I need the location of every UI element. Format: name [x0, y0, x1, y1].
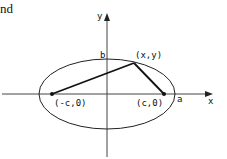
point-label: (x,y) — [135, 50, 162, 60]
ellipse-diagram: y x b a (x,y) (-c,0) (c,0) — [0, 0, 227, 159]
left-focal-segment — [52, 63, 134, 94]
b-label: b — [100, 50, 105, 60]
right-focus-label: (c,0) — [136, 98, 163, 108]
x-axis-label: x — [208, 96, 214, 106]
y-axis-arrow-icon — [104, 13, 110, 21]
right-focal-segment — [134, 63, 164, 94]
right-focus-point — [162, 92, 166, 96]
a-label: a — [177, 94, 182, 104]
left-focus-label: (-c,0) — [54, 98, 87, 108]
y-axis-label: y — [97, 11, 103, 21]
left-focus-point — [50, 92, 54, 96]
